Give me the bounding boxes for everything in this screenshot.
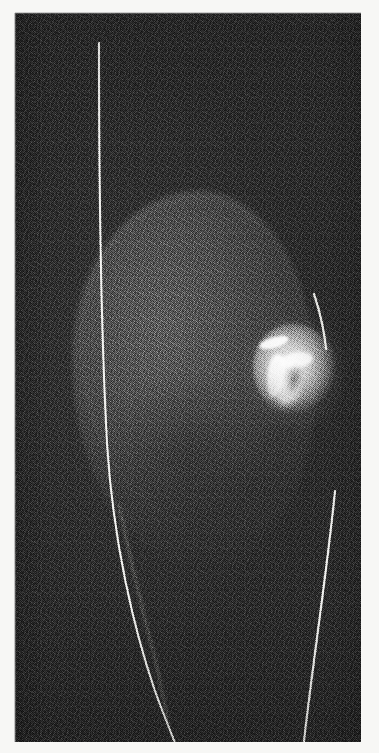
scanned-medical-image-figure	[0, 0, 379, 753]
paper-trim-bottom	[0, 742, 379, 753]
paper-trim-left	[0, 0, 15, 753]
right-marker-line-glow	[303, 491, 335, 742]
image-plate	[15, 13, 361, 742]
plate-edge-shadow-top	[15, 12, 361, 14]
paper-trim-right	[361, 0, 379, 753]
tissue-shadow-pocket	[111, 383, 261, 533]
right-marker-line	[303, 491, 335, 742]
plate-edge-shadow-left	[14, 13, 16, 742]
